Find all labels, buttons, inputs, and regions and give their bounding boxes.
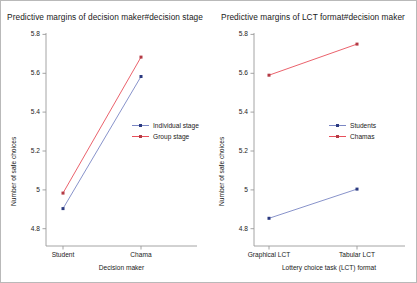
x-tick-label: Tabular LCT xyxy=(319,251,395,258)
legend-key-icon xyxy=(329,133,346,141)
chart-panel-left: Predictive margins of decision maker#dec… xyxy=(1,1,209,282)
y-tick-label: 5.6 xyxy=(13,69,40,76)
y-tick-label: 5.4 xyxy=(221,108,248,115)
data-point-group-stage-chama xyxy=(140,56,143,59)
data-point-students-graphical xyxy=(268,217,271,220)
data-point-individual-stage-chama xyxy=(140,75,143,78)
series-line-group-stage xyxy=(63,57,141,193)
y-tick-label: 5.2 xyxy=(221,147,248,154)
y-tick-label: 4.8 xyxy=(221,225,248,232)
legend-left: Individual stage Group stage xyxy=(132,120,199,142)
y-tick-label: 5.4 xyxy=(13,108,40,115)
y-tick-label: 5.2 xyxy=(13,147,40,154)
legend-key-icon xyxy=(132,122,149,130)
legend-key-icon xyxy=(132,133,149,141)
legend-label: Individual stage xyxy=(153,122,199,130)
legend-key-icon xyxy=(329,122,346,130)
legend-item-students[interactable]: Students xyxy=(329,120,376,131)
y-tick-label: 5.8 xyxy=(13,30,40,37)
plot-area-right xyxy=(209,1,417,282)
legend-label: Group stage xyxy=(153,133,189,141)
legend-item-chamas[interactable]: Chamas xyxy=(329,131,376,142)
x-tick-label: Chama xyxy=(111,251,171,258)
legend-item-individual-stage[interactable]: Individual stage xyxy=(132,120,199,131)
series-line-students xyxy=(269,189,357,218)
chart-panel-right: Predictive margins of LCT format#decisio… xyxy=(209,1,417,282)
series-line-individual-stage xyxy=(63,77,141,209)
y-tick-label: 4.8 xyxy=(13,225,40,232)
y-tick-label: 5 xyxy=(13,186,40,193)
legend-item-group-stage[interactable]: Group stage xyxy=(132,131,199,142)
data-point-chamas-graphical xyxy=(268,74,271,77)
y-tick-label: 5.8 xyxy=(221,30,248,37)
y-axis-title-right: Number of safe choices xyxy=(218,137,225,206)
y-axis-title-left: Number of safe choices xyxy=(10,137,17,206)
data-point-students-tabular xyxy=(356,188,359,191)
x-axis-title-right: Lottery choice task (LCT) format xyxy=(249,264,409,271)
data-point-chamas-tabular xyxy=(356,43,359,46)
data-point-individual-stage-student xyxy=(62,207,65,210)
legend-label: Chamas xyxy=(350,133,375,141)
series-line-chamas xyxy=(269,44,357,75)
figure-frame: Predictive margins of decision maker#dec… xyxy=(0,0,417,283)
legend-right: Students Chamas xyxy=(329,120,376,142)
y-tick-label: 5.6 xyxy=(221,69,248,76)
y-tick-label: 5 xyxy=(221,186,248,193)
x-axis-title-left: Decision maker xyxy=(46,264,197,271)
x-tick-label: Graphical LCT xyxy=(229,251,309,258)
legend-label: Students xyxy=(350,122,376,130)
x-tick-label: Student xyxy=(33,251,93,258)
data-point-group-stage-student xyxy=(62,192,65,195)
